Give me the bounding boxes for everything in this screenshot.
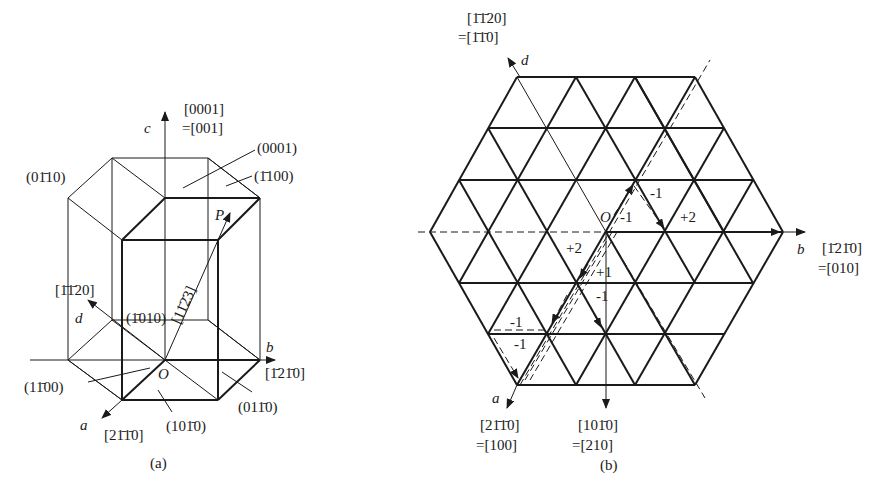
hexagonal-crystal-figure: c [0001] =[001] (0001) (1̄100) (01̄10) P… (0, 0, 886, 495)
d-axis-arrow (508, 58, 520, 77)
plane-front-left: (11̄00) (24, 379, 63, 396)
axis-a-label: a (80, 417, 88, 433)
b-direction-label: [1̄21̄0] (265, 365, 305, 381)
step-label-7: -1 (510, 314, 523, 330)
a-axis-arrow (507, 385, 517, 408)
axis-b-label: b (266, 339, 274, 355)
c-direction-4index: [0001] (184, 101, 224, 117)
axis-d-label: d (75, 310, 83, 326)
down-direction-4index: [101̄0] (578, 417, 618, 433)
step-label-1: -1 (650, 185, 663, 201)
step-label-4: +2 (566, 240, 582, 256)
axis-c-label: c (144, 120, 151, 136)
plane-front-right: (011̄0) (238, 399, 277, 416)
plane-back-left: (01̄10) (26, 169, 65, 186)
step-label-8: -1 (514, 336, 527, 352)
plane-front: (101̄0) (166, 418, 206, 435)
figure-b-hexagonal-grid (418, 58, 805, 408)
a-direction-3index: =[100] (476, 437, 517, 453)
a-direction-4index: [21̄1̄0] (480, 417, 519, 433)
d-direction-4index: [1̄1̄20] (467, 10, 506, 26)
step-label-5: +1 (596, 264, 612, 280)
d-axis (88, 300, 165, 360)
origin-o-label: O (158, 366, 169, 382)
b-direction-3index: =[010] (818, 260, 859, 276)
c-direction-3index: =[001] (182, 120, 223, 136)
step-label-6: -1 (596, 288, 609, 304)
figure-a-hexagonal-prism (30, 112, 275, 418)
down-direction-3index: =[210] (572, 437, 613, 453)
a-direction-label: [21̄1̄0] (104, 427, 143, 443)
axis-d-label: d (521, 52, 529, 68)
b-direction-4index: [1̄21̄0] (822, 240, 862, 256)
origin-o-label: O (600, 209, 611, 225)
step-label-3: +2 (680, 209, 696, 225)
a-axis (102, 400, 122, 418)
step-label-2: -1 (620, 209, 633, 225)
d-direction-label: [1̄1̄20] (55, 282, 94, 298)
caption-a: (a) (150, 455, 167, 472)
caption-b: (b) (600, 457, 618, 474)
plane-back: (1̄010) (126, 310, 166, 327)
axis-b-label: b (797, 241, 805, 257)
axis-a-label: a (492, 390, 500, 406)
plane-0001: (0001) (257, 140, 297, 157)
d-direction-3index: =[1̄1̄0] (458, 29, 498, 45)
plane-back-right: (1̄100) (254, 168, 293, 185)
point-p-label: P (214, 207, 224, 223)
op-vector (165, 213, 230, 360)
